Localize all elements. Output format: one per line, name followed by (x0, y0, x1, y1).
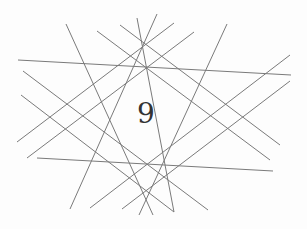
center-number: 9 (131, 96, 161, 132)
line-star-diagram: 9 (0, 0, 307, 229)
line-8 (27, 32, 194, 158)
line-3 (97, 31, 270, 160)
line-1 (37, 158, 273, 171)
